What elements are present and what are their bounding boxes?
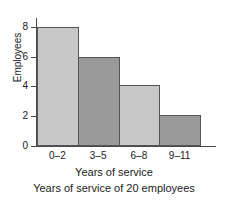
y-axis-tick-label: 0 (22, 141, 28, 151)
histogram-bar (37, 27, 79, 146)
x-axis-line (36, 146, 216, 147)
x-axis-title: Years of service (0, 166, 228, 179)
histogram-bar (78, 57, 120, 146)
y-axis-tick-label: 4 (22, 81, 28, 91)
y-axis-tick-label: 8 (22, 22, 28, 32)
figure-caption: Years of service of 20 employees (0, 182, 228, 195)
y-axis-title: Employees (12, 23, 23, 93)
histogram-bar (159, 115, 201, 146)
x-axis-tick-label: 3–5 (78, 150, 119, 161)
y-axis-tick-mark (31, 146, 37, 147)
plot-area (37, 18, 200, 146)
x-axis-tick-label: 0–2 (37, 150, 78, 161)
y-axis-tick-label: 2 (22, 111, 28, 121)
histogram-figure: 02468 Employees Years of service Years o… (0, 0, 228, 202)
x-axis-tick-label: 9–11 (159, 150, 200, 161)
y-axis-tick-label: 6 (22, 52, 28, 62)
x-axis-tick-label: 6–8 (119, 150, 160, 161)
histogram-bar (119, 85, 161, 146)
